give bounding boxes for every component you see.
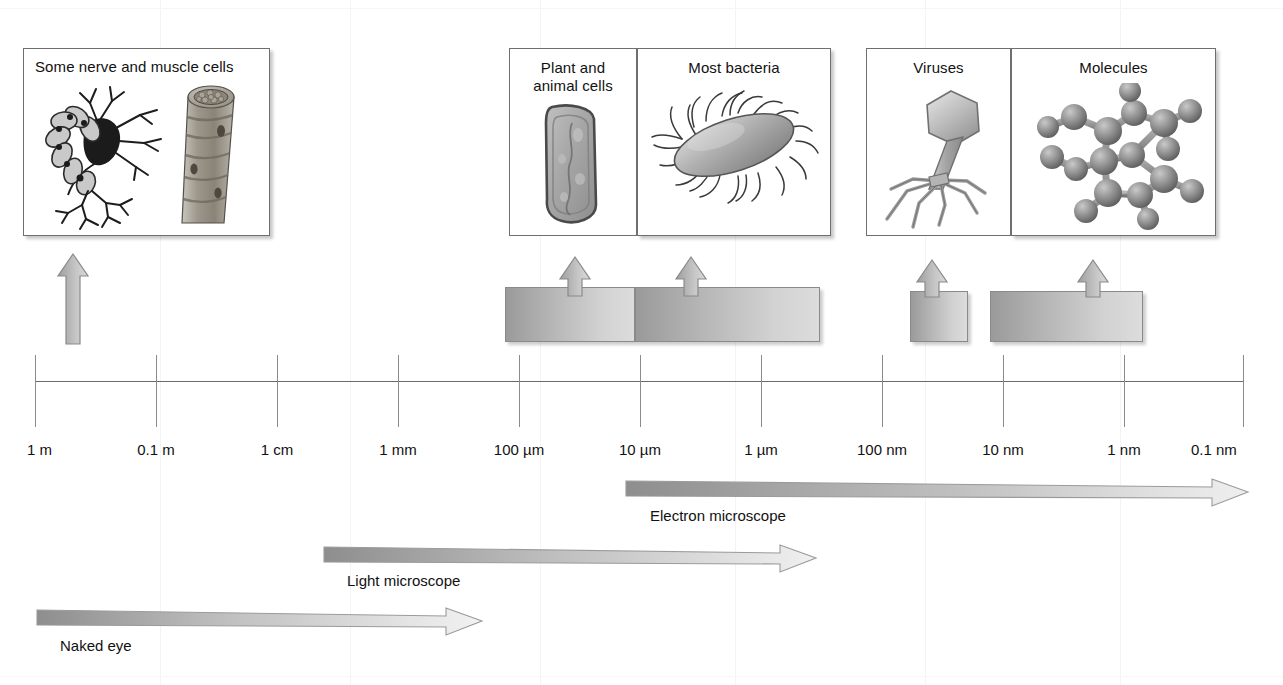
- pointer-arrow-plant-animal-cells: [558, 255, 592, 297]
- axis-tick-label: 1 mm: [379, 441, 417, 458]
- axis-tick: [761, 355, 762, 427]
- method-label-light-microscope: Light microscope: [347, 572, 460, 589]
- axis-tick: [1243, 355, 1244, 427]
- axis-tick: [640, 355, 641, 427]
- pointer-arrow-nerve-muscle: [56, 252, 90, 346]
- axis-tick: [277, 355, 278, 427]
- axis-tick: [1003, 355, 1004, 427]
- axis-tick-label: 0.1 m: [137, 441, 175, 458]
- panel-caption-most-bacteria: Most bacteria: [638, 59, 830, 77]
- method-label-naked-eye: Naked eye: [60, 637, 132, 654]
- axis-tick-label: 100 µm: [494, 441, 544, 458]
- scan-artifact-row: [0, 8, 1283, 9]
- axis-tick-label: 10 nm: [982, 441, 1024, 458]
- panel-viruses: Viruses: [866, 48, 1011, 236]
- caption-line-2: animal cells: [533, 77, 613, 94]
- artwork-generic-cell: [510, 101, 636, 229]
- axis-tick: [1124, 355, 1125, 427]
- axis-tick: [35, 355, 36, 427]
- axis-tick-label: 100 nm: [857, 441, 907, 458]
- pointer-arrow-molecules: [1076, 258, 1110, 298]
- panel-caption-viruses: Viruses: [867, 59, 1010, 77]
- axis-tick: [156, 355, 157, 427]
- panel-caption-plant-animal-cells: Plant and animal cells: [510, 59, 636, 95]
- panel-caption-nerve-muscle: Some nerve and muscle cells: [24, 58, 269, 76]
- panel-nerve-muscle: Some nerve and muscle cells: [23, 48, 270, 236]
- axis-tick-label: 10 µm: [619, 441, 661, 458]
- pointer-arrow-most-bacteria: [674, 255, 708, 297]
- artwork-neuron-and-muscle-fibre: [24, 79, 269, 231]
- artwork-ball-and-stick-molecule: [1012, 83, 1215, 231]
- axis-tick-label: 1 µm: [744, 441, 778, 458]
- method-arrow-naked-eye: [35, 606, 483, 640]
- range-bar-most-bacteria: [635, 287, 820, 342]
- axis-tick-label: 0.1 nm: [1191, 441, 1237, 458]
- method-label-electron-microscope: Electron microscope: [650, 507, 786, 524]
- axis-tick-label: 1 cm: [261, 441, 294, 458]
- caption-line-1: Plant and: [541, 59, 605, 76]
- axis-tick-label: 1 m: [27, 441, 52, 458]
- panel-divider: [1011, 48, 1012, 236]
- figure-canvas: Some nerve and muscle cells: [0, 0, 1283, 685]
- axis-tick: [519, 355, 520, 427]
- panel-plant-animal-cells: Plant and animal cells: [509, 48, 637, 236]
- range-bar-viruses: [910, 291, 968, 342]
- panel-divider: [637, 48, 638, 236]
- scan-artifact-row: [0, 676, 1283, 677]
- pointer-arrow-viruses: [915, 258, 949, 298]
- artwork-bacteriophage: [867, 85, 1010, 231]
- axis-tick: [398, 355, 399, 427]
- range-bar-molecules: [990, 291, 1143, 342]
- artwork-flagellated-bacterium: [638, 83, 830, 231]
- panel-molecules: Molecules: [1011, 48, 1216, 236]
- axis-tick: [882, 355, 883, 427]
- panel-caption-molecules: Molecules: [1012, 59, 1215, 77]
- method-arrow-electron-microscope: [624, 477, 1250, 511]
- panel-most-bacteria: Most bacteria: [637, 48, 831, 236]
- axis-tick-label: 1 nm: [1107, 441, 1140, 458]
